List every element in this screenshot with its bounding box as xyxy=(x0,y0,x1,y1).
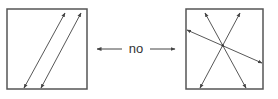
diagram-canvas: no xyxy=(0,0,278,99)
connector: no xyxy=(97,41,175,56)
right-crossing-arrows xyxy=(187,13,262,88)
double-arrow-icon xyxy=(41,13,81,88)
double-arrow-icon xyxy=(187,30,262,63)
double-arrow-icon xyxy=(205,13,246,88)
connector-label: no xyxy=(129,41,143,56)
intersection-point xyxy=(222,44,224,46)
double-arrow-icon xyxy=(24,13,65,88)
right-panel xyxy=(186,9,263,89)
left-parallel-arrows xyxy=(24,13,81,88)
left-panel xyxy=(7,9,87,89)
